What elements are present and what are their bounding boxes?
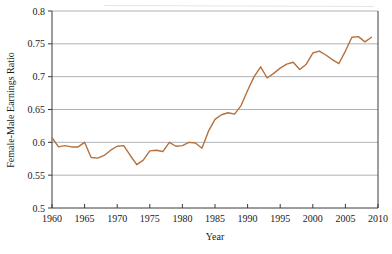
clipped-title-artifact: [104, 6, 374, 7]
x-tick-label: 2005: [335, 213, 355, 224]
x-tick-label: 1985: [205, 213, 225, 224]
y-tick-label: 0.55: [28, 170, 46, 181]
x-tick-label: 1975: [140, 213, 160, 224]
x-tick-label: 1970: [107, 213, 127, 224]
data-series-line: [52, 37, 371, 165]
gridlines: [52, 11, 378, 175]
y-tick-label: 0.75: [28, 38, 46, 49]
x-tick-label: 1990: [238, 213, 258, 224]
chart-container: 0.50.550.60.650.70.750.8 196019651970197…: [0, 0, 392, 254]
x-tick-label: 1960: [42, 213, 62, 224]
x-tick-label: 1965: [75, 213, 95, 224]
y-tick-label: 0.7: [33, 71, 46, 82]
y-tick-label: 0.6: [33, 137, 46, 148]
y-tick-label: 0.5: [33, 203, 46, 214]
x-tick-label: 2000: [303, 213, 323, 224]
y-tick-labels: 0.50.550.60.650.70.750.8: [28, 6, 46, 214]
x-tick-label: 2010: [368, 213, 388, 224]
x-tick-labels: 1960196519701975198019851990199520002005…: [42, 213, 388, 224]
x-axis-title: Year: [206, 231, 225, 242]
x-tick-label: 1980: [172, 213, 192, 224]
y-tick-label: 0.65: [28, 104, 46, 115]
y-tick-label: 0.8: [33, 6, 46, 17]
line-chart: 0.50.550.60.650.70.750.8 196019651970197…: [0, 0, 392, 254]
x-tick-label: 1995: [270, 213, 290, 224]
y-axis-title: Female-Male Earnings Ratio: [5, 52, 16, 168]
